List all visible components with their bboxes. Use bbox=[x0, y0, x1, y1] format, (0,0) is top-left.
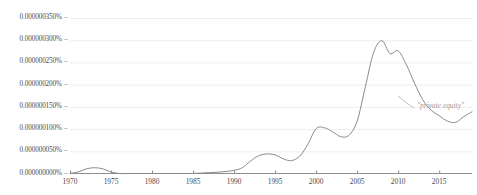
x-axis-tick-label: 1985 bbox=[173, 177, 213, 186]
gridlines bbox=[70, 19, 472, 152]
y-axis-tick-mark: – bbox=[64, 13, 68, 21]
y-axis-tick-label: 0.000000050% bbox=[4, 146, 62, 154]
y-axis-tick-mark: – bbox=[64, 124, 68, 132]
y-axis-tick-label: 0.000000300% bbox=[4, 35, 62, 43]
y-axis-tick-mark: – bbox=[64, 169, 68, 177]
x-axis-tick-label: 1995 bbox=[255, 177, 295, 186]
x-axis-tick-label: 2010 bbox=[378, 177, 418, 186]
chart-plot-area bbox=[0, 0, 477, 195]
series-label-private-equity: "private equity" bbox=[417, 101, 464, 110]
x-axis-tick-label: 1975 bbox=[91, 177, 131, 186]
y-axis-tick-mark: – bbox=[64, 80, 68, 88]
y-axis-tick-label: 0.000000250% bbox=[4, 57, 62, 65]
y-axis-tick-mark: – bbox=[64, 102, 68, 110]
y-axis-tick-label: 0.000000150% bbox=[4, 102, 62, 110]
ngram-chart: 0.000000350%–0.000000300%–0.000000250%–0… bbox=[0, 0, 477, 195]
y-axis-tick-mark: – bbox=[64, 35, 68, 43]
x-axis-tick-label: 1980 bbox=[132, 177, 172, 186]
x-axis-tick-label: 2015 bbox=[419, 177, 459, 186]
x-axis-tick-label: 2005 bbox=[337, 177, 377, 186]
x-axis-tick-label: 2000 bbox=[296, 177, 336, 186]
x-axis-tick-label: 1970 bbox=[50, 177, 90, 186]
y-axis-tick-label: 0.000000000% bbox=[4, 169, 62, 177]
y-axis-tick-label: 0.000000350% bbox=[4, 13, 62, 21]
y-axis-tick-mark: – bbox=[64, 57, 68, 65]
y-axis-tick-label: 0.000000200% bbox=[4, 80, 62, 88]
x-axis-tick-label: 1990 bbox=[214, 177, 254, 186]
y-axis-tick-label: 0.000000100% bbox=[4, 124, 62, 132]
y-axis-tick-mark: – bbox=[64, 146, 68, 154]
annotation-leader-line bbox=[398, 96, 414, 108]
